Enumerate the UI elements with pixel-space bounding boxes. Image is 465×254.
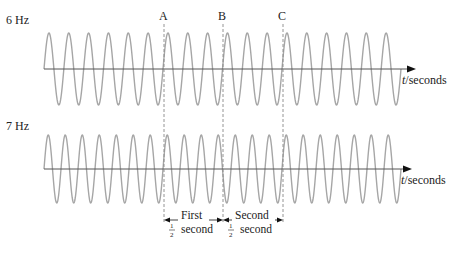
interval-label-second-word: second bbox=[240, 223, 272, 235]
fraction-num: 1 bbox=[170, 222, 174, 230]
axis-arrow-bottom-icon bbox=[403, 166, 412, 173]
axis-label-top: t/seconds bbox=[402, 73, 447, 87]
interval-label-first: First bbox=[181, 209, 203, 221]
marker-label-c: C bbox=[278, 9, 286, 23]
marker-label-a: A bbox=[159, 9, 168, 23]
interval-second-half: Second 1 2 second bbox=[223, 209, 283, 239]
arrow-right-icon bbox=[217, 218, 223, 223]
fraction-den: 2 bbox=[170, 231, 174, 239]
beats-diagram: 6 Hz 7 Hz A B C t/seconds t/seconds Firs… bbox=[0, 0, 465, 254]
frequency-label-6hz: 6 Hz bbox=[6, 13, 29, 27]
interval-label-second: Second bbox=[235, 209, 269, 221]
axis-label-bottom: t/seconds bbox=[401, 173, 446, 187]
axis-arrow-top-icon bbox=[407, 66, 416, 73]
frequency-label-7hz: 7 Hz bbox=[6, 119, 29, 133]
arrow-right-icon bbox=[277, 218, 283, 223]
interval-label-second-word: second bbox=[181, 223, 213, 235]
marker-label-b: B bbox=[218, 9, 226, 23]
fraction-den: 2 bbox=[229, 231, 233, 239]
interval-first-half: First 1 2 second bbox=[164, 209, 223, 239]
fraction-num: 1 bbox=[229, 222, 233, 230]
